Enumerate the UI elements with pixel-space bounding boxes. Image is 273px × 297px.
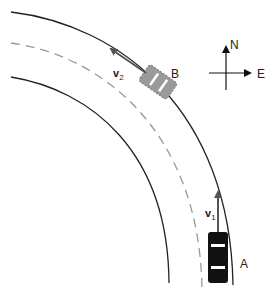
car-a-label: A [240, 257, 248, 271]
velocity-v2-label: v2 [113, 67, 124, 82]
velocity-v1-label: v1 [205, 207, 216, 222]
car-b-label: B [171, 67, 179, 81]
road-inner-edge [11, 77, 169, 283]
compass-east-label: E [257, 67, 265, 81]
road-outer-edge [11, 12, 233, 285]
compass-north-label: N [230, 38, 239, 52]
compass-icon [209, 47, 250, 90]
car-a [208, 232, 228, 283]
